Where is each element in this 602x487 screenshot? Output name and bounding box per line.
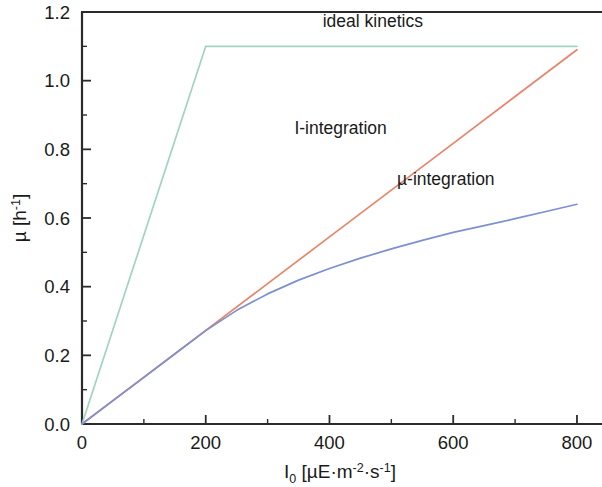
x-tick-label: 200	[190, 432, 221, 453]
y-tick-label: 0.2	[44, 345, 70, 366]
x-tick-label: 400	[314, 432, 345, 453]
x-tick-label: 800	[562, 432, 593, 453]
chart-figure: 0.00.20.40.60.81.01.2 0200400600800 idea…	[0, 0, 602, 487]
x-axis-title-exp1: -2	[353, 461, 364, 475]
x-axis-title-unit-open: [µE·m	[296, 461, 352, 482]
y-axis-title-symbol: µ [h	[9, 210, 30, 242]
x-tick-label: 0	[77, 432, 87, 453]
y-axis-title-exp: -1	[9, 199, 23, 210]
x-tick-label: 600	[438, 432, 469, 453]
x-axis-title-unit-close: ]	[391, 461, 396, 482]
annotation-i-integration: I-integration	[294, 118, 386, 138]
annotation-ideal-kinetics: ideal kinetics	[323, 11, 423, 31]
x-axis-title-exp2: -1	[380, 461, 391, 475]
y-tick-label: 0.0	[44, 414, 70, 435]
chart-background	[0, 0, 602, 487]
x-axis-title-subscript: 0	[289, 472, 296, 486]
y-tick-label: 1.0	[44, 70, 70, 91]
y-tick-label: 0.6	[44, 208, 70, 229]
y-tick-label: 0.4	[44, 276, 70, 297]
y-axis-title-close: ]	[9, 194, 30, 199]
line-chart: 0.00.20.40.60.81.01.2 0200400600800 idea…	[0, 0, 602, 487]
annotation-mu-integration: µ-integration	[397, 169, 495, 189]
y-tick-label: 0.8	[44, 139, 70, 160]
x-axis-title-unit-mid: ·s	[364, 461, 380, 482]
y-tick-label: 1.2	[44, 2, 70, 23]
